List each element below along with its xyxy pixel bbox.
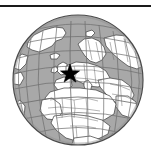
globe-container (0, 8, 155, 151)
globe-svg (0, 8, 155, 151)
top-horizontal-rule (0, 5, 151, 7)
locator-globe-figure (0, 0, 155, 151)
